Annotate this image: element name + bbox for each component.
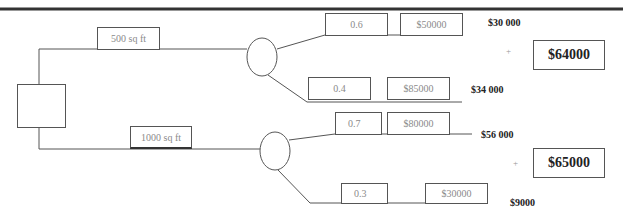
payoff-box: $50000 xyxy=(400,13,463,36)
branch-label-500: 500 sq ft xyxy=(97,27,160,50)
plus-sign: + xyxy=(506,46,511,56)
edge-upper-outcome-1 xyxy=(277,35,400,49)
total-box-500: $64000 xyxy=(533,40,605,70)
total-box-1000: $65000 xyxy=(533,148,605,178)
chance-node-lower xyxy=(260,132,290,170)
expected-value: $56 000 xyxy=(481,129,514,140)
branch-label-1000: 1000 sq ft xyxy=(130,126,192,149)
tree-lines xyxy=(0,0,623,218)
chance-node-upper xyxy=(247,38,277,76)
expected-value: $9000 xyxy=(510,197,535,208)
plus-sign: + xyxy=(513,158,518,168)
expected-value: $30 000 xyxy=(488,17,521,28)
probability-box: 0.3 xyxy=(341,183,388,204)
probability-box: 0.7 xyxy=(335,112,382,135)
payoff-box: $80000 xyxy=(387,112,450,135)
probability-box: 0.4 xyxy=(308,77,371,100)
decision-node xyxy=(17,84,66,128)
probability-box: 0.6 xyxy=(325,13,388,36)
expected-value: $34 000 xyxy=(471,84,504,95)
payoff-box: $30000 xyxy=(425,183,488,204)
edge-root-upper xyxy=(39,49,247,84)
payoff-box: $85000 xyxy=(387,77,450,100)
